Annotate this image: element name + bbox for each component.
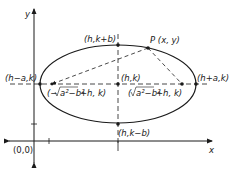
center-label: (h,k) <box>121 73 141 83</box>
right-focus-suffix: +h, k) <box>156 88 182 98</box>
y-axis: y <box>24 9 37 163</box>
left-focus-suffix: +h, k) <box>80 88 106 98</box>
top-co-vertex-label: (h,k+b) <box>84 34 116 44</box>
x-axis-label: x <box>208 145 215 155</box>
left-focus-label: (− a²−b² +h, k) <box>47 87 106 98</box>
point-p <box>146 46 150 50</box>
right-focus-point <box>180 82 184 86</box>
bottom-co-vertex-label: (h,k−b) <box>118 128 150 138</box>
left-focus-point <box>51 83 54 86</box>
bottom-co-vertex-point <box>116 122 120 126</box>
left-focus-prefix: (− <box>47 88 57 98</box>
ellipse-diagram: y x (0,0) (h,k+b) P (x, y) (h−a,k) (h,k)… <box>0 0 233 172</box>
right-focus-label: ( a²−b² +h, k) <box>128 87 182 98</box>
center-point <box>116 82 120 86</box>
x-axis: x (0,0) <box>9 138 215 155</box>
left-vertex-label: (h−a,k) <box>5 73 37 83</box>
left-vertex-point <box>38 82 42 86</box>
y-axis-label: y <box>24 9 31 19</box>
top-co-vertex-point <box>116 43 120 47</box>
right-vertex-label: (h+a,k) <box>197 73 229 83</box>
origin-label: (0,0) <box>13 145 33 155</box>
points <box>38 43 198 126</box>
point-p-label: P (x, y) <box>150 35 180 45</box>
